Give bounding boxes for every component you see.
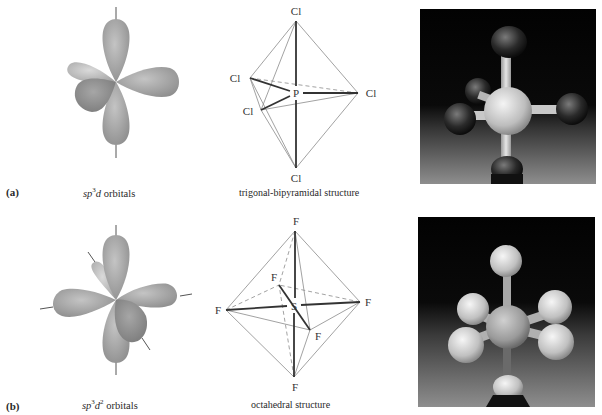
octahedral-diagram: S F F F F F F — [200, 210, 405, 415]
panel-b-orbital-caption: sp3d2 orbitals — [82, 398, 138, 411]
caption-suffix: orbitals — [101, 188, 135, 199]
ligand-cl-left-lower: Cl — [243, 105, 253, 117]
ligand-cl-right: Cl — [366, 87, 376, 99]
ligand-f-bottom: F — [292, 381, 298, 393]
caption-suffix: orbitals — [104, 400, 138, 411]
central-atom-p: P — [293, 87, 299, 99]
sp3d2-orbitals-diagram — [0, 210, 200, 415]
panel-a-structure: P Cl Cl Cl Cl Cl — [200, 0, 405, 205]
ligand-f-front: F — [315, 330, 321, 342]
panel-a-orbital-caption: sp3d orbitals — [83, 186, 135, 199]
panel-b-structure-caption: octahedral structure — [251, 399, 330, 410]
panel-a-structure-caption: trigonal-bipyramidal structure — [239, 187, 359, 198]
panel-a-orbitals — [0, 0, 200, 205]
caption-sp: sp — [82, 400, 91, 411]
panel-b-model-photo — [418, 217, 595, 407]
ligand-cl-bottom: Cl — [291, 172, 301, 184]
sf6-model-illustration — [418, 217, 595, 407]
panel-b-orbitals — [0, 210, 200, 415]
central-atom-s: S — [291, 300, 297, 312]
panel-b-structure: S F F F F F F — [200, 210, 405, 415]
ligand-f-back: F — [271, 271, 277, 283]
panel-b-label: (b) — [6, 400, 19, 412]
panel-a-model-photo — [420, 9, 596, 184]
pcl5-model-illustration — [420, 9, 596, 184]
sp3d-orbitals-diagram — [0, 0, 200, 205]
ligand-f-left: F — [215, 304, 221, 316]
caption-sp: sp — [83, 188, 92, 199]
ligand-f-right: F — [365, 296, 371, 308]
trigonal-bipyramidal-diagram: P Cl Cl Cl Cl Cl — [200, 0, 405, 205]
ligand-cl-left-upper: Cl — [230, 72, 240, 84]
panel-a-label: (a) — [6, 186, 19, 198]
ligand-f-top: F — [293, 215, 299, 227]
ligand-cl-top: Cl — [291, 5, 301, 17]
